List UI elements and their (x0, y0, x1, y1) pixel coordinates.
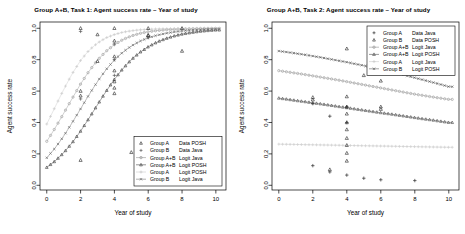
data-point (345, 47, 348, 50)
curve-marker (132, 44, 134, 46)
legend-group-label: Group B (383, 66, 403, 72)
curve-marker (277, 97, 280, 99)
data-point (113, 27, 116, 30)
curve-marker (326, 144, 329, 147)
curve-marker (277, 143, 280, 146)
data-point (113, 92, 116, 95)
curve-marker (61, 138, 63, 140)
x-axis-label: Year of study (347, 209, 385, 217)
series-points (79, 30, 150, 101)
curve-marker (364, 144, 367, 147)
x-tick-label: 8 (180, 196, 184, 202)
data-point (345, 112, 348, 115)
curve-marker (417, 145, 420, 148)
legend-group-label: Group A+B (150, 155, 176, 161)
y-tick-label: 0.2 (31, 149, 37, 158)
curve-marker (109, 35, 112, 38)
curve-marker (424, 145, 427, 148)
curve-marker (428, 145, 431, 148)
legend-box (367, 26, 455, 76)
legend-group-label: Group B (150, 176, 170, 182)
curve-marker (394, 145, 397, 148)
curve-marker (105, 36, 108, 39)
legend-series-label: Logit POSH (179, 169, 207, 175)
curve-marker (439, 146, 442, 149)
legend-series-label: Data POSH (412, 37, 439, 43)
data-point (79, 94, 82, 97)
data-point (328, 115, 331, 118)
curve-marker (91, 89, 93, 91)
legend-series-label: Logit POSH (412, 51, 440, 57)
curve-marker (413, 145, 416, 148)
curve-marker (64, 85, 67, 88)
data-point (113, 55, 116, 58)
curve-marker (128, 30, 131, 33)
data-point (180, 49, 183, 52)
y-tick-label: 0.6 (31, 86, 37, 95)
curve-marker (338, 144, 341, 147)
legend-group-label: Group A (150, 140, 170, 146)
curve-marker (121, 52, 123, 54)
curve-marker (289, 143, 292, 146)
data-point (345, 151, 348, 154)
curve-marker (383, 145, 386, 148)
series-curve (277, 143, 453, 149)
curve-marker (341, 144, 344, 147)
data-point (311, 164, 314, 167)
series-curve (277, 97, 453, 124)
x-tick-label: 4 (113, 196, 117, 202)
curve-marker (300, 143, 303, 146)
curve-marker (334, 144, 337, 147)
y-tick-label: 0.8 (31, 55, 37, 64)
curve-marker (353, 144, 356, 147)
curve-marker (311, 143, 314, 146)
curve-marker (102, 73, 104, 75)
legend-box (134, 136, 222, 186)
curve-marker (102, 38, 105, 41)
curve-marker (75, 65, 78, 68)
curve-marker (72, 71, 75, 74)
y-axis-label: Agent success rate (238, 78, 246, 133)
curve-marker (390, 145, 393, 148)
curve-marker (49, 115, 52, 118)
curve-marker (68, 126, 70, 128)
curve-marker (296, 143, 299, 146)
curve-marker (409, 145, 412, 148)
curve-marker (143, 28, 146, 31)
y-tick-label: 0.2 (263, 149, 269, 158)
curve-marker (117, 55, 119, 57)
data-point (96, 60, 99, 63)
curve-marker (117, 32, 120, 35)
curve-marker (330, 144, 333, 147)
data-point (113, 86, 116, 89)
legend-group-label: Group B (383, 37, 403, 43)
curve-marker (285, 143, 288, 146)
curve-marker (432, 146, 435, 149)
curve-marker (53, 148, 55, 150)
chart-panel-task1: Group A+B, Task 1: Agent success rate – … (0, 0, 232, 234)
curve-marker (375, 145, 378, 148)
legend-series-label: Logit Java (179, 176, 203, 182)
legend-group-label: Group A+B (150, 162, 176, 168)
data-point (345, 173, 348, 176)
curve-marker (106, 68, 108, 70)
legend-series-label: Logit POSH (412, 66, 440, 72)
fitted-line (47, 28, 219, 124)
curve-marker (76, 114, 78, 116)
curve-marker (64, 132, 66, 134)
curve-marker (124, 49, 126, 51)
data-point (345, 95, 348, 98)
data-point (79, 89, 82, 92)
data-point (362, 177, 365, 180)
legend-group-label: Group A (383, 59, 403, 65)
series-points (311, 102, 416, 182)
x-tick-label: 2 (311, 196, 315, 202)
curve-marker (304, 143, 307, 146)
legend-group-label: Group A+B (383, 51, 409, 57)
data-point (79, 30, 82, 33)
x-axis-label: Year of study (114, 209, 152, 217)
figure-container: Group A+B, Task 1: Agent success rate – … (0, 0, 465, 234)
data-point (413, 179, 416, 182)
y-axis-label: Agent success rate (6, 78, 14, 133)
curve-marker (398, 145, 401, 148)
